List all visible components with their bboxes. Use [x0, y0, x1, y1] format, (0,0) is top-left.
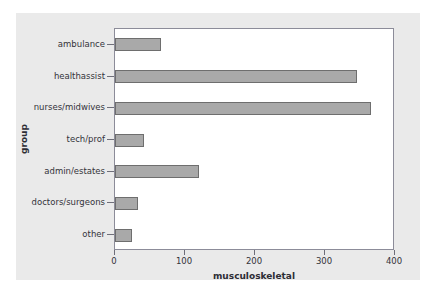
x-axis-tick-label: 200 — [246, 256, 262, 266]
figure-background: group 0100200300400 musculoskeletal ambu… — [16, 13, 420, 280]
x-axis-tick-label: 100 — [176, 256, 192, 266]
x-axis-tick-mark — [184, 250, 185, 255]
y-axis-tick-label: tech/prof — [67, 134, 105, 144]
bar — [115, 70, 357, 83]
y-axis-tick-label: healthassist — [54, 71, 105, 81]
y-axis-tick-label: other — [82, 229, 105, 239]
bar — [115, 165, 199, 178]
y-axis-tick-label: admin/estates — [44, 166, 105, 176]
y-axis-tick-mark — [107, 107, 114, 108]
x-axis-tick-mark — [324, 250, 325, 255]
y-axis-tick-label: ambulance — [58, 39, 105, 49]
x-axis-tick-mark — [394, 250, 395, 255]
bar — [115, 102, 371, 115]
bar — [115, 229, 132, 242]
y-axis-title: group — [19, 124, 29, 154]
x-axis-tick-mark — [114, 250, 115, 255]
plot-area — [114, 28, 394, 250]
x-axis-tick-mark — [254, 250, 255, 255]
x-axis-tick-label: 300 — [316, 256, 332, 266]
bar — [115, 134, 144, 147]
bar — [115, 38, 161, 51]
x-axis-tick-label: 0 — [111, 256, 116, 266]
bar — [115, 197, 138, 210]
y-axis-tick-mark — [107, 139, 114, 140]
y-axis-tick-mark — [107, 171, 114, 172]
y-axis-tick-label: doctors/surgeons — [32, 197, 105, 207]
x-axis-tick-label: 400 — [386, 256, 402, 266]
x-axis-title: musculoskeletal — [114, 271, 394, 281]
y-axis-tick-mark — [107, 234, 114, 235]
bars-layer — [115, 29, 393, 249]
y-axis-tick-mark — [107, 44, 114, 45]
y-axis-tick-mark — [107, 202, 114, 203]
y-axis-tick-label: nurses/midwives — [34, 102, 105, 112]
y-axis-tick-mark — [107, 76, 114, 77]
